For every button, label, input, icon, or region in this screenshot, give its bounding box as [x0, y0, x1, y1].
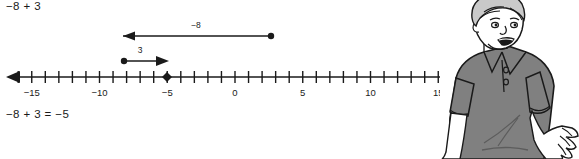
boy-shrugging-illustration [440, 0, 579, 159]
shirt-button-bottom [504, 79, 509, 85]
answer-expression: −8 + 3 = −5 [6, 108, 69, 120]
axis-tick-label: 0 [232, 87, 237, 98]
jump-minus-8-label: −8 [191, 20, 201, 30]
jump-minus-8: −8 [123, 20, 274, 41]
axis-tick-label: −15 [24, 87, 40, 98]
axis-tick-label: −10 [91, 87, 107, 98]
jump-minus-8-arrowhead [123, 32, 135, 41]
number-line-diagram: −8 3 −15−10−5051015 [0, 0, 460, 110]
jump-plus-3-start-dot [121, 58, 127, 64]
pupil-left [495, 24, 498, 27]
shirt-button-top [504, 67, 509, 73]
solution-point-diamond [162, 72, 172, 82]
pupil-right [514, 24, 517, 27]
axis-tick-labels: −15−10−5051015 [24, 87, 444, 98]
axis-tick-label: 10 [365, 87, 376, 98]
number-line-svg: −8 3 −15−10−5051015 [0, 0, 460, 110]
jump-plus-3: 3 [121, 45, 169, 66]
axis-tick-label: −5 [162, 87, 173, 98]
solution-point [162, 72, 172, 82]
axis-tick-label: 5 [300, 87, 305, 98]
jump-plus-3-arrowhead [156, 56, 169, 66]
worked-example-figure: −8 + 3 −8 3 [0, 0, 579, 159]
number-line-axis [6, 71, 454, 83]
jump-minus-8-start-dot [268, 33, 274, 39]
boy-shrugging-svg [440, 0, 579, 159]
jump-plus-3-label: 3 [138, 45, 143, 55]
